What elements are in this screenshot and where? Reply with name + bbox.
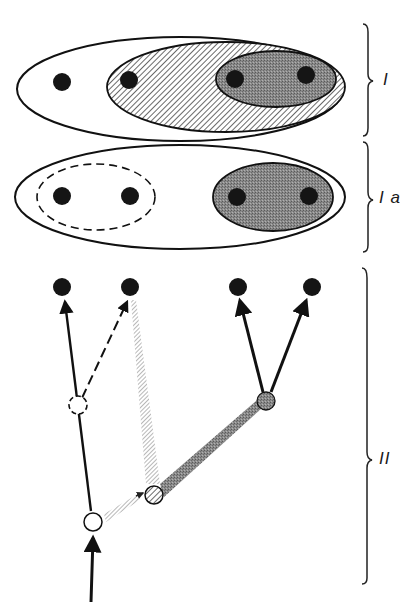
edge-hatched-to-terminal-2 — [131, 300, 160, 484]
terminal-dot-1 — [53, 278, 71, 296]
label-panel-ii: II — [379, 449, 390, 469]
node-root — [84, 513, 102, 531]
node-hatched — [145, 486, 163, 504]
terminal-dot-2 — [121, 278, 139, 296]
brace-ia — [363, 142, 373, 252]
terminal-dot-4 — [300, 187, 318, 205]
label-panel-i: I — [383, 70, 389, 90]
terminal-dot-4 — [297, 66, 315, 84]
panel-ia — [15, 145, 345, 249]
terminal-dot-2 — [121, 187, 139, 205]
edge-root-to-hatched-arrow — [136, 493, 143, 496]
edge-stippled-to-terminal-3 — [240, 301, 263, 392]
brace-ii — [362, 268, 372, 584]
edge-stippled-to-terminal-4 — [271, 301, 306, 392]
terminal-dot-4 — [303, 278, 321, 296]
terminal-dot-1 — [53, 73, 71, 91]
diagram-svg — [0, 0, 409, 615]
brace-i — [363, 24, 373, 136]
edge-base-to-root — [91, 538, 93, 602]
node-stippled — [257, 392, 275, 410]
edge-dashed-to-terminal-2 — [82, 302, 127, 398]
terminal-dot-3 — [226, 70, 244, 88]
panel-i — [17, 37, 345, 141]
label-panel-ia: I a — [379, 188, 401, 208]
edge-root-to-hatched — [104, 494, 140, 522]
panel-ii — [53, 278, 321, 602]
terminal-dot-3 — [229, 278, 247, 296]
diagram-stage: I I a II — [0, 0, 409, 615]
node-dashed — [69, 396, 87, 414]
edge-hatched-to-stippled — [160, 401, 262, 497]
terminal-dot-1 — [53, 187, 71, 205]
terminal-dot-2 — [120, 71, 138, 89]
terminal-dot-3 — [228, 188, 246, 206]
